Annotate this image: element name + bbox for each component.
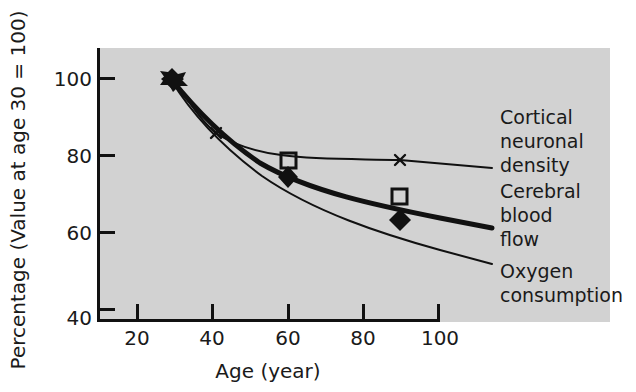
y-tick-label-80: 80 [67,144,92,168]
label-line-cortical: Cortical [500,106,573,128]
chart-figure: 100 80 60 40 20 40 60 80 100 Age (year) … [0,0,636,392]
x-tick-label-40: 40 [199,326,224,350]
x-tick-label-60: 60 [275,326,300,350]
x-tick-label-80: 80 [350,326,375,350]
label-line-cerebral: Cerebral [500,180,581,202]
x-tick-label-20: 20 [124,326,149,350]
label-line-consumption: consumption [500,284,623,306]
line-chart-svg: 100 80 60 40 20 40 60 80 100 Age (year) … [0,0,636,392]
label-line-density: density [500,154,570,176]
y-tick-label-40: 40 [67,306,92,330]
label-line-neuronal: neuronal [500,130,584,152]
label-line-flow: flow [500,228,539,250]
label-line-oxygen: Oxygen [500,260,573,282]
x-tick-label-100: 100 [421,326,459,350]
x-axis-title: Age (year) [215,359,320,383]
label-line-blood: blood [500,204,553,226]
y-tick-label-100: 100 [54,67,92,91]
y-tick-label-60: 60 [67,221,92,245]
y-axis-title: Percentage (Value at age 30 = 100) [6,11,30,370]
